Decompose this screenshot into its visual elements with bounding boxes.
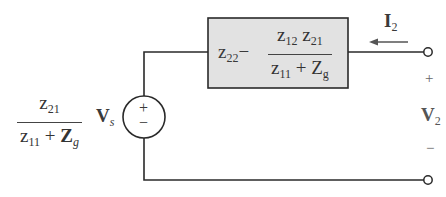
current-arrow-head	[369, 39, 378, 46]
source-coefficient: z21 z11 + Zg	[17, 92, 82, 153]
source-variable-vs: Vs	[96, 105, 114, 130]
box-fraction-denominator: z11 + Zg	[268, 57, 332, 85]
wire-source-to-box	[144, 52, 208, 96]
terminal-bottom	[424, 176, 432, 184]
port-minus-sign: −	[426, 140, 434, 157]
source-coefficient-numerator: z21	[36, 92, 62, 120]
fraction-bar	[17, 122, 82, 123]
port-voltage-v2: V2	[421, 104, 441, 129]
terminal-top	[424, 48, 432, 56]
current-label-i2: I2	[384, 10, 397, 35]
wire-bottom	[144, 138, 424, 180]
fraction-bar	[268, 54, 332, 55]
box-fraction-numerator: z12 z21	[274, 24, 326, 52]
source-coefficient-denominator: z11 + Zg	[17, 125, 82, 153]
box-z22-minus: z22−	[218, 41, 249, 66]
port-plus-sign: +	[425, 70, 433, 87]
source-minus-sign: −	[139, 114, 148, 132]
box-fraction: z12 z21 z11 + Zg	[268, 24, 332, 85]
